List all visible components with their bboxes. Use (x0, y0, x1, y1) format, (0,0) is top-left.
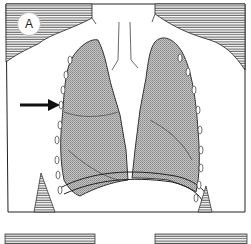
chest-illustration (0, 0, 251, 244)
panel-label: A (17, 12, 41, 36)
next-panel-top (5, 234, 247, 244)
